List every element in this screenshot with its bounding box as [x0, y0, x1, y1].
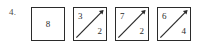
box-top-left-value: 7 — [120, 12, 125, 21]
box-bottom-right-value: 2 — [140, 27, 145, 36]
number-box-split: 3 2 — [73, 7, 107, 41]
box-center-value: 8 — [32, 20, 64, 29]
number-box-split: 6 4 — [157, 7, 191, 41]
box-bottom-right-value: 4 — [182, 27, 187, 36]
number-box-split: 7 2 — [115, 7, 149, 41]
box-bottom-right-value: 2 — [98, 27, 103, 36]
box-top-left-value: 3 — [78, 12, 83, 21]
box-row: 8 3 2 7 2 6 4 — [31, 7, 191, 41]
worksheet-problem: 4. 8 3 2 7 2 — [0, 0, 207, 47]
number-box: 8 — [31, 7, 65, 41]
item-number-label: 4. — [9, 8, 16, 17]
box-top-left-value: 6 — [162, 12, 167, 21]
